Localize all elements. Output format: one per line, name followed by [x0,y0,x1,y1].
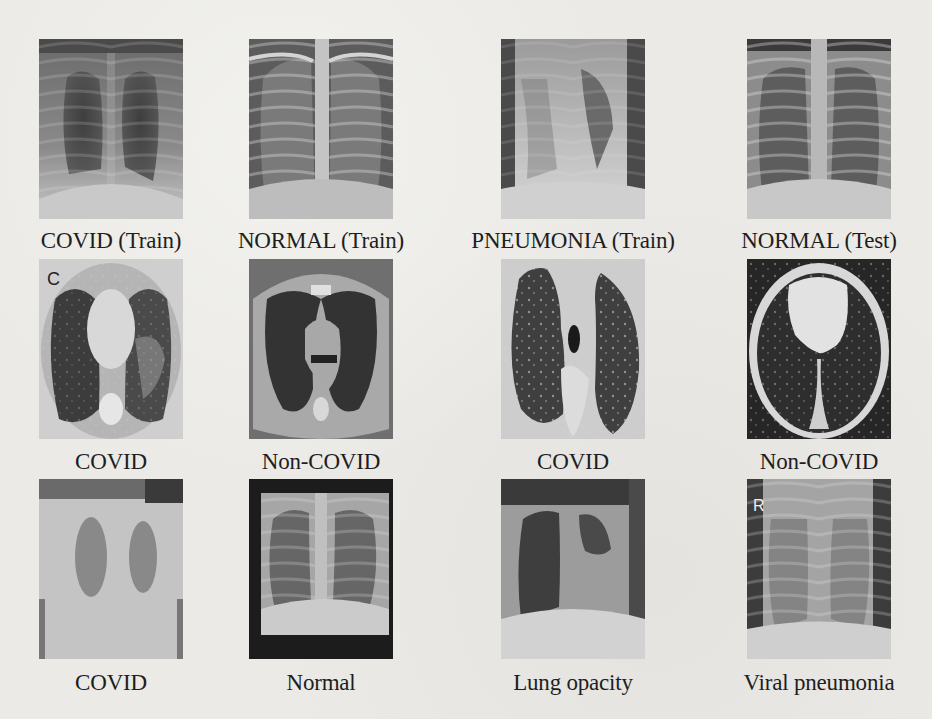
chest-xray-covid-image [39,479,183,659]
caption-normal-test: NORMAL (Test) [741,228,896,254]
chest-xray-normal-train-image [249,39,393,219]
chest-xray-covid-train-image [39,39,183,219]
caption-ct-covid-1: COVID [75,449,147,475]
chest-ct-non-covid-2-image [747,259,891,439]
caption-normal-train: NORMAL (Train) [238,228,404,254]
chest-xray-pneumonia-train-image [501,39,645,219]
chest-xray-viral-pneumonia-image: R [747,479,891,659]
svg-text:C: C [47,269,60,289]
chest-xray-lung-opacity-image [501,479,645,659]
caption-normal: Normal [286,670,355,696]
caption-ct-covid-2: COVID [537,449,609,475]
caption-covid: COVID [75,670,147,696]
chest-xray-normal-image [249,479,393,659]
chest-ct-covid-2-image [501,259,645,439]
caption-pneumonia-train: PNEUMONIA (Train) [471,228,674,254]
svg-text:R: R [753,497,765,514]
chest-ct-non-covid-image [249,259,393,439]
chest-xray-normal-test-image [747,39,891,219]
caption-ct-non-covid-1: Non-COVID [262,449,380,475]
chest-ct-covid-image: C [39,259,183,439]
caption-lung-opacity: Lung opacity [513,670,633,696]
caption-ct-non-covid-2: Non-COVID [760,449,878,475]
caption-viral-pneumonia: Viral pneumonia [744,670,895,696]
caption-covid-train: COVID (Train) [41,228,181,254]
